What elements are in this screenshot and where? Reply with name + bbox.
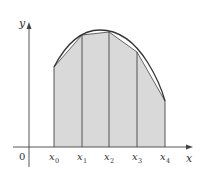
diagram-canvas: y x 0 x 0 x 1 x 2 x 3 x 4 (0, 0, 203, 173)
tick-label-x0: x 0 (49, 151, 59, 165)
x-axis-arrow-icon (186, 145, 193, 150)
x-axis-label: x (186, 152, 193, 165)
tick-label-x4: x 4 (160, 151, 170, 165)
svg-text:2: 2 (110, 157, 114, 165)
trapezoid-region (54, 32, 165, 147)
origin-label: 0 (19, 151, 25, 162)
trapezoid-diagram: y x 0 x 0 x 1 x 2 x 3 x 4 (0, 0, 203, 173)
svg-text:1: 1 (83, 157, 87, 165)
y-axis-arrow-icon (27, 22, 32, 29)
tick-label-x2: x 2 (104, 151, 114, 165)
svg-text:4: 4 (166, 157, 170, 165)
svg-text:3: 3 (138, 157, 142, 165)
tick-label-x3: x 3 (132, 151, 142, 165)
svg-text:0: 0 (55, 157, 59, 165)
y-axis-label: y (18, 17, 26, 30)
tick-label-x1: x 1 (77, 151, 87, 165)
